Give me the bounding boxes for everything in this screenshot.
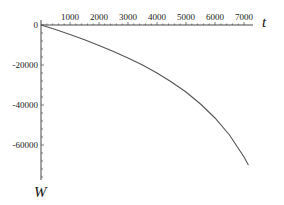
line-chart: 10002000300040005000600070000-20000-4000… (0, 0, 284, 205)
y-tick-label: -20000 (13, 60, 39, 70)
y-axis-label: W (34, 184, 48, 200)
axes (41, 20, 253, 180)
y-tick-label: 0 (34, 20, 39, 30)
x-tick-label: 3000 (119, 12, 138, 22)
data-curve (41, 25, 248, 165)
ticks: 10002000300040005000600070000-20000-4000… (13, 12, 254, 177)
x-tick-label: 2000 (90, 12, 109, 22)
y-tick-label: -60000 (13, 140, 39, 150)
x-tick-label: 5000 (177, 12, 196, 22)
x-tick-label: 4000 (148, 12, 167, 22)
x-tick-label: 1000 (61, 12, 80, 22)
x-tick-label: 6000 (206, 12, 225, 22)
y-tick-label: -40000 (13, 100, 39, 110)
x-tick-label: 7000 (235, 12, 254, 22)
x-axis-label: t (262, 14, 267, 30)
